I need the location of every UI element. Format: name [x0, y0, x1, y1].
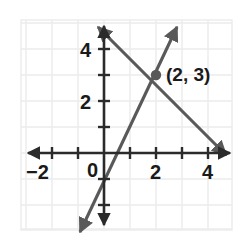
graph-canvas: [0, 0, 250, 239]
y-tick-label-4: 4: [80, 40, 91, 60]
intersection-point: [151, 70, 161, 80]
intersection-point-label: (2, 3): [166, 65, 210, 84]
x-tick-label-neg2: −2: [26, 162, 49, 182]
x-tick-label-2: 2: [150, 162, 161, 182]
coordinate-graph: −2 0 2 4 2 4 (2, 3): [0, 0, 250, 239]
y-tick-label-2: 2: [80, 92, 91, 112]
origin-label: 0: [87, 160, 98, 180]
x-tick-label-4: 4: [202, 162, 213, 182]
